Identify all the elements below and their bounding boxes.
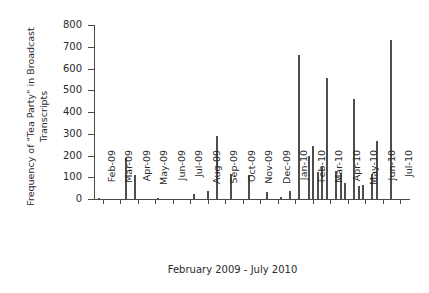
- x-axis-tick: [295, 199, 296, 204]
- y-axis-tick-label: 700: [40, 42, 82, 52]
- x-axis-tick: [330, 199, 331, 204]
- y-axis-tick-label: 300: [40, 129, 82, 139]
- x-axis-title: February 2009 - July 2010: [0, 264, 429, 275]
- bar: [98, 198, 100, 199]
- x-axis-tick: [400, 199, 401, 204]
- x-axis-tick: [225, 199, 226, 204]
- x-axis-tick-label: Jun-10: [387, 150, 397, 208]
- x-axis-tick: [260, 199, 261, 204]
- x-axis-tick: [103, 199, 104, 204]
- y-axis-tick-label: 800: [40, 20, 82, 30]
- x-axis-tick-label: Jun-09: [177, 150, 187, 208]
- x-axis-tick-label: Jan-10: [299, 150, 309, 208]
- bar: [362, 185, 364, 199]
- x-axis-tick: [348, 199, 349, 204]
- bar: [207, 191, 209, 199]
- x-axis-tick: [383, 199, 384, 204]
- x-axis-tick-label: Sep-09: [229, 150, 239, 208]
- x-axis-tick-label: May-09: [159, 150, 169, 208]
- y-axis-tick-label: 600: [40, 64, 82, 74]
- y-axis-tick-label: 0: [40, 194, 82, 204]
- x-axis-tick: [365, 199, 366, 204]
- x-axis-tick-label: Mar-10: [334, 150, 344, 208]
- x-axis-tick: [138, 199, 139, 204]
- x-axis-title-text: February 2009 - July 2010: [132, 264, 298, 275]
- bar: [344, 183, 346, 199]
- y-axis-tick-label: 500: [40, 85, 82, 95]
- x-axis-tick: [243, 199, 244, 204]
- x-axis-tick-label: Aug-09: [212, 150, 222, 208]
- x-axis-tick-label: Feb-10: [317, 150, 327, 208]
- x-axis-tick-label: May-10: [369, 150, 379, 208]
- x-axis-tick-label: Apr-09: [142, 150, 152, 208]
- x-axis-tick: [313, 199, 314, 204]
- x-axis-tick-label: Nov-09: [264, 150, 274, 208]
- y-axis-tick-label: 200: [40, 151, 82, 161]
- x-axis-tick-label: Apr-10: [352, 150, 362, 208]
- x-axis-tick: [155, 199, 156, 204]
- x-axis-tick: [190, 199, 191, 204]
- y-axis-tick-label: 100: [40, 172, 82, 182]
- x-axis-tick: [173, 199, 174, 204]
- x-axis-tick: [208, 199, 209, 204]
- x-axis-tick-label: Feb-09: [107, 150, 117, 208]
- bar: [312, 146, 314, 199]
- y-axis-tick-label: 400: [40, 107, 82, 117]
- x-axis-tick-label: Dec-09: [282, 150, 292, 208]
- bar: [134, 175, 136, 199]
- x-axis-tick-label: Jul-09: [194, 150, 204, 208]
- x-axis-tick-label: Mar-09: [124, 150, 134, 208]
- x-axis-tick: [278, 199, 279, 204]
- x-axis-tick-label: Oct-09: [247, 150, 257, 208]
- x-axis-tick-label: Jul-10: [404, 150, 414, 208]
- x-axis-tick: [120, 199, 121, 204]
- chart-figure: Frequency of "Tea Party" in Broadcast Tr…: [0, 0, 429, 293]
